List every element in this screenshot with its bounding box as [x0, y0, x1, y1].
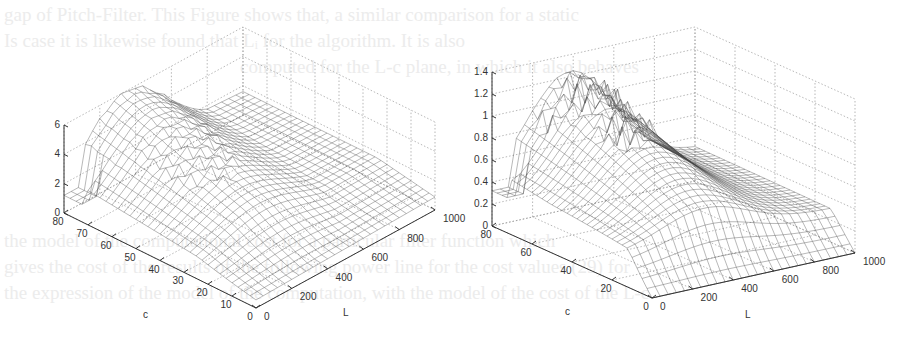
- z-tick-label: 2: [54, 178, 60, 189]
- L-tick-label: 800: [407, 233, 424, 244]
- L-tick-label: 0: [264, 311, 270, 322]
- c-tick-label: 30: [172, 275, 184, 286]
- L-tick-label: 600: [782, 274, 799, 285]
- z-tick-label: 1.4: [474, 66, 488, 77]
- z-tick-label: 1.2: [474, 88, 488, 99]
- L-axis-label: L: [745, 309, 751, 320]
- L-tick-label: 0: [660, 301, 666, 312]
- c-tick-label: 20: [600, 283, 612, 294]
- axes: 02468070605040302010002004006008001000: [52, 119, 465, 322]
- c-tick-label: 10: [220, 299, 232, 310]
- c-tick-label: 80: [480, 229, 492, 240]
- L-tick-label: 400: [336, 272, 353, 283]
- z-tick-label: 0.2: [474, 198, 488, 209]
- z-tick-label: 6: [54, 119, 60, 130]
- c-tick-label: 0: [247, 311, 253, 322]
- grid-lines: [64, 27, 435, 308]
- surface-plot-left: 02468070605040302010002004006008001000 c…: [52, 27, 465, 322]
- L-axis-label: L: [343, 307, 349, 318]
- z-tick-label: 4: [54, 148, 60, 159]
- c-axis-label: c: [565, 306, 570, 317]
- wireframe-mesh: [492, 71, 855, 298]
- figure: 02468070605040302010002004006008001000 c…: [0, 0, 923, 339]
- c-tick-label: 20: [196, 287, 208, 298]
- L-tick-label: 1000: [443, 213, 466, 224]
- z-tick-label: 0.8: [474, 132, 488, 143]
- L-tick-label: 1000: [863, 256, 886, 267]
- surface-plot-right: 00.20.40.60.811.21.480604020002004006008…: [474, 27, 886, 320]
- c-tick-label: 0: [643, 301, 649, 312]
- L-tick-label: 600: [371, 252, 388, 263]
- c-tick-label: 50: [124, 252, 136, 263]
- c-tick-label: 80: [52, 216, 64, 227]
- z-tick-label: 0.4: [474, 176, 488, 187]
- c-tick-label: 40: [560, 265, 572, 276]
- L-tick-label: 200: [701, 292, 718, 303]
- L-tick-label: 200: [300, 291, 317, 302]
- c-tick-label: 60: [520, 247, 532, 258]
- c-tick-label: 70: [76, 228, 88, 239]
- c-axis-label: c: [143, 309, 148, 320]
- z-tick-label: 0.6: [474, 154, 488, 165]
- L-tick-label: 800: [822, 265, 839, 276]
- c-tick-label: 60: [100, 240, 112, 251]
- L-tick-label: 400: [741, 283, 758, 294]
- z-tick-label: 1: [482, 110, 488, 121]
- c-tick-label: 40: [148, 264, 160, 275]
